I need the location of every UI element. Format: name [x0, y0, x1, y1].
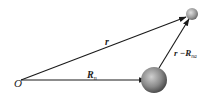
vector-r-label: r: [105, 36, 109, 47]
small-particle-sphere: [186, 8, 198, 20]
vector-r-minus-Rna-label: r −Rna: [174, 48, 197, 59]
large-particle-sphere: [141, 67, 167, 93]
vector-r-minus-Rna-arrow: [159, 19, 189, 68]
origin-label: O: [14, 77, 22, 89]
vector-Rn-label: Rn: [86, 69, 97, 81]
vector-diagram: O r Rn r −Rna: [0, 0, 214, 102]
